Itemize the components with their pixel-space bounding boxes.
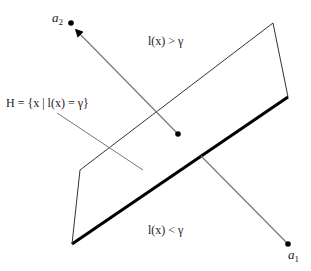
hyperplane-diagram: a2 l(x) > γ H = {x | l(x) = γ} l(x) < γ … — [0, 0, 311, 271]
plane-left-edge — [72, 170, 80, 244]
label-a1: a1 — [288, 247, 299, 264]
hyperplane-leader-line — [57, 113, 143, 170]
plane-bottom-edge — [72, 97, 288, 244]
point-a1 — [285, 241, 291, 247]
point-plane-center — [175, 131, 181, 137]
label-hyperplane: H = {x | l(x) = γ} — [6, 96, 89, 110]
label-a2: a2 — [52, 10, 63, 27]
line-to-a1 — [201, 156, 288, 244]
label-lower-region: l(x) < γ — [148, 223, 184, 237]
label-upper-region: l(x) > γ — [148, 34, 184, 48]
point-a2 — [68, 20, 74, 26]
plane-right-edge — [273, 23, 288, 97]
